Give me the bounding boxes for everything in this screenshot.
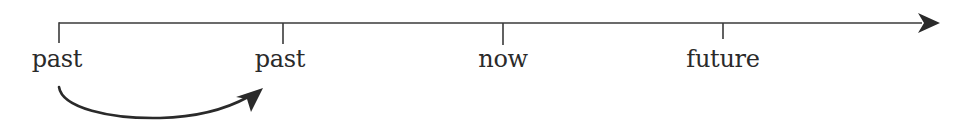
- tick-label-past-1: past: [32, 45, 82, 73]
- tick-label-future: future: [686, 45, 759, 73]
- tick-label-now: now: [478, 45, 528, 73]
- curved-arrow: [59, 87, 248, 118]
- tick-label-past-2: past: [255, 45, 305, 73]
- timeline-diagram: past past now future: [0, 0, 964, 124]
